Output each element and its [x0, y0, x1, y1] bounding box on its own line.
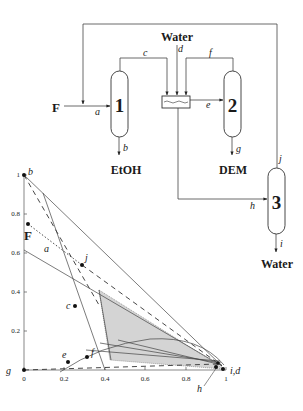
point-label-id: i,d	[230, 365, 241, 376]
x-tick-0.6: 0.6	[141, 375, 150, 383]
point-f	[85, 355, 89, 359]
point-label-g: g	[6, 365, 11, 376]
point-b	[22, 173, 26, 177]
stream-label-e: e	[206, 99, 211, 110]
x-tick-0.8: 0.8	[182, 375, 191, 383]
decanter	[162, 96, 190, 108]
stream-label-i: i	[280, 238, 283, 249]
two-liquid-region-shading	[99, 290, 223, 369]
water-inlet-label: Water	[161, 30, 194, 44]
point-F	[26, 222, 30, 226]
y-tick-0.6: 0.6	[11, 249, 20, 257]
product-dem-label: DEM	[219, 163, 247, 177]
column-1-label: 1	[115, 95, 125, 116]
point-id	[221, 367, 225, 371]
x-tick-0.4: 0.4	[101, 375, 110, 383]
column-1: 1	[111, 71, 128, 137]
product-water-label: Water	[261, 257, 294, 271]
point-label-b: b	[28, 166, 33, 177]
point-j	[80, 263, 84, 267]
ternary-plot: 0 0.2 0.4 0.6 0.8 1 0.2 0.4 0.6 0.8 1 b …	[6, 166, 241, 394]
flowsheet	[64, 24, 277, 252]
point-label-a: a	[44, 243, 49, 254]
point-label-h: h	[197, 383, 202, 394]
x-tick-1: 1	[224, 375, 228, 383]
stream-h-line	[178, 108, 267, 199]
stream-label-a: a	[95, 106, 100, 117]
column-2: 2	[224, 71, 241, 137]
product-etoh-label: EtOH	[111, 163, 142, 177]
point-h	[214, 365, 218, 369]
feed-label: F	[52, 100, 60, 115]
point-e	[66, 360, 70, 364]
x-tick-0: 0	[22, 375, 26, 383]
y-tick-0.2: 0.2	[11, 327, 20, 335]
point-label-e: e	[62, 349, 67, 360]
column-2-label: 2	[228, 95, 238, 116]
stream-label-j: j	[277, 153, 282, 164]
point-label-f: f	[91, 347, 95, 358]
column-3: 3	[268, 168, 285, 234]
column-3-label: 3	[272, 192, 282, 213]
stream-label-c: c	[143, 47, 148, 58]
stream-label-f: f	[209, 47, 213, 58]
point-label-F: F	[24, 228, 32, 243]
stream-label-b: b	[123, 142, 128, 153]
x-tick-0.2: 0.2	[60, 375, 69, 383]
y-tick-0.8: 0.8	[11, 210, 20, 218]
stream-label-g: g	[236, 143, 241, 154]
point-near-id	[216, 361, 220, 365]
stream-label-d: d	[178, 43, 184, 54]
point-g	[22, 368, 26, 372]
y-tick-0.4: 0.4	[11, 288, 20, 296]
process-diagram-figure: 1 2 3 F Water EtOH DEM Water a b c d e f…	[0, 0, 303, 411]
point-c	[73, 304, 77, 308]
stream-label-h: h	[250, 200, 255, 211]
y-tick-1: 1	[17, 171, 21, 179]
mixing-line-F-j	[28, 224, 82, 265]
point-label-j: j	[83, 252, 88, 263]
point-label-c: c	[66, 300, 71, 311]
